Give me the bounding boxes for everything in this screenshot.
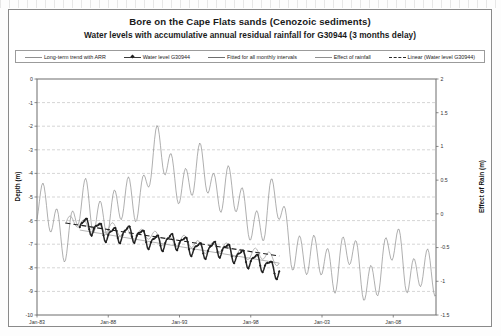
svg-text:0: 0 [30,76,33,82]
chart-title-block: Bore on the Cape Flats sands (Cenozoic s… [9,15,491,41]
svg-text:-10: -10 [26,312,34,318]
legend-item-effect-of-rainfall[interactable]: Effect of rainfall [315,54,371,60]
gridlines [37,103,436,292]
y-axis-ticks-right: 21.510.50-0.5-1-1.5 [436,76,450,318]
svg-text:-9: -9 [28,288,33,294]
legend-label: Fitted for all monthly intervals [227,54,297,60]
svg-text:Jan-08: Jan-08 [385,319,401,325]
svg-text:Jan-88: Jan-88 [100,319,116,325]
legend-swatch-line-icon [25,54,42,60]
svg-text:1.5: 1.5 [441,110,448,116]
legend-item-linear-water-level[interactable]: Linear (Water level G30944) [389,54,476,60]
svg-text:-3: -3 [28,147,33,153]
chart-subtitle: Water levels with accumulative annual re… [9,29,491,41]
svg-text:-7: -7 [28,241,33,247]
legend-item-fitted-monthly[interactable]: Fitted for all monthly intervals [208,54,297,60]
water-level-line [80,219,280,280]
fitted-monthly-line [80,230,280,263]
svg-text:-2: -2 [28,123,33,129]
effect-of-rainfall-line [37,126,436,301]
y-axis-ticks-left: 0-1-2-3-4-5-6-7-8-9-10 [26,76,38,318]
legend-swatch-line-icon [208,54,225,60]
legend-label: Long-term trend with ARR [44,54,106,60]
svg-text:-1: -1 [28,100,33,106]
legend-swatch-marker-icon [124,54,141,60]
svg-text:-4: -4 [28,170,33,176]
legend-swatch-dashed-icon [389,54,406,60]
svg-text:Jan-93: Jan-93 [172,319,188,325]
legend-swatch-line-icon [315,54,332,60]
legend-label: Effect of rainfall [334,54,371,60]
legend-item-water-level[interactable]: Water level G30944 [124,54,190,60]
plot-border [37,79,436,315]
legend-label: Linear (Water level G30944) [408,54,476,60]
screenshot-root: Bore on the Cape Flats sands (Cenozoic s… [0,0,501,336]
scan-artifact [0,0,501,8]
x-axis-ticks: Jan-83Jan-88Jan-93Jan-98Jan-03Jan-08 [29,315,401,325]
svg-text:-8: -8 [28,265,33,271]
series-effect-of-rainfall [37,126,436,301]
svg-text:-6: -6 [28,218,33,224]
legend-label: Water level G30944 [143,54,190,60]
plot-area-wrapper: Depth (m) Effect of Rain (m) 0-1-2-3-4-5… [9,65,493,325]
chart-legend: Long-term trend with ARR Water level G30… [15,50,485,63]
svg-text:Jan-83: Jan-83 [29,319,45,325]
chart-title: Bore on the Cape Flats sands (Cenozoic s… [9,15,491,28]
svg-text:Jan-03: Jan-03 [314,319,330,325]
svg-text:1: 1 [441,143,444,149]
legend-item-long-term-trend[interactable]: Long-term trend with ARR [25,54,106,60]
series-fitted-monthly [80,230,280,263]
svg-text:Jan-98: Jan-98 [243,319,259,325]
linear-trend-dashed-line [66,223,280,256]
svg-text:-0.5: -0.5 [441,244,450,250]
svg-text:0.5: 0.5 [441,177,448,183]
series-linear-trend [66,223,280,256]
svg-text:0: 0 [441,211,444,217]
svg-text:-1: -1 [441,278,446,284]
svg-text:-5: -5 [28,194,33,200]
svg-text:-1.5: -1.5 [441,312,450,318]
chart-frame: Bore on the Cape Flats sands (Cenozoic s… [8,9,492,327]
plot-svg: 0-1-2-3-4-5-6-7-8-9-10 21.510.50-0.5-1-1… [9,65,493,325]
svg-text:2: 2 [441,76,444,82]
